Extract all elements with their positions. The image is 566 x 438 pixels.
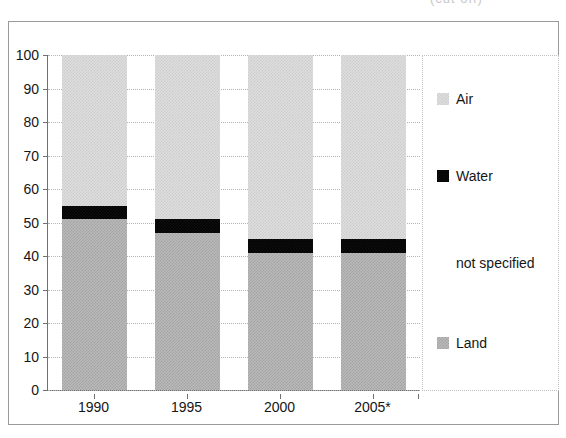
bar-segment[interactable] [248, 239, 313, 252]
bar-segment[interactable] [155, 219, 220, 232]
bar-segment[interactable] [248, 55, 313, 239]
y-tick-label-0: 0 [31, 383, 39, 397]
chart-figure-frame: 1009080706050403020100 1990199520002005*… [8, 21, 559, 425]
bar-group[interactable] [62, 55, 127, 390]
y-tick-label-60: 60 [23, 182, 39, 196]
y-tick-label-10: 10 [23, 350, 39, 364]
legend-entry[interactable]: Land [437, 336, 487, 350]
y-tick-label-70: 70 [23, 149, 39, 163]
x-tick-mark [187, 394, 188, 399]
legend-label: Land [456, 336, 487, 350]
legend-entry[interactable]: Water [437, 169, 493, 183]
y-tick-label-50: 50 [23, 216, 39, 230]
legend-label: Air [456, 92, 473, 106]
legend-entry[interactable]: Air [437, 92, 473, 106]
bar-segment[interactable] [341, 55, 406, 239]
legend-swatch-icon [437, 93, 449, 105]
bar-group[interactable] [248, 55, 313, 390]
top-caption-fragment: (cut off) [430, 0, 550, 7]
legend-swatch-icon [437, 337, 449, 349]
x-tick-mark [94, 394, 95, 399]
bar-segment[interactable] [155, 55, 220, 219]
y-axis: 1009080706050403020100 [9, 55, 43, 391]
chart-legend: AirWaternot specifiedLand [422, 55, 559, 391]
x-tick-label-2005: 2005* [354, 400, 391, 414]
bar-segment[interactable] [341, 253, 406, 390]
y-tick-label-80: 80 [23, 115, 39, 129]
gridline-0 [48, 390, 420, 391]
x-axis: 1990199520002005* [47, 394, 420, 420]
bar-segment[interactable] [62, 219, 127, 390]
x-tick-label-2000: 2000 [264, 400, 295, 414]
x-tick-label-1990: 1990 [78, 400, 109, 414]
bar-segment[interactable] [62, 206, 127, 219]
legend-swatch-icon [437, 170, 449, 182]
y-tick-label-90: 90 [23, 82, 39, 96]
bar-segment[interactable] [62, 55, 127, 206]
x-tick-mark [418, 394, 419, 399]
y-tick-label-40: 40 [23, 249, 39, 263]
bar-segment[interactable] [155, 233, 220, 390]
bar-group[interactable] [341, 55, 406, 390]
y-tick-label-30: 30 [23, 283, 39, 297]
bar-segment[interactable] [341, 239, 406, 252]
legend-entry[interactable]: not specified [437, 256, 535, 270]
x-tick-mark [280, 394, 281, 399]
bar-segment[interactable] [248, 253, 313, 390]
legend-label: not specified [456, 256, 535, 270]
plot-area [47, 55, 420, 391]
bar-group[interactable] [155, 55, 220, 390]
y-tick-label-100: 100 [16, 48, 39, 62]
y-tick-label-20: 20 [23, 316, 39, 330]
legend-label: Water [456, 169, 493, 183]
legend-swatch-icon [437, 257, 449, 269]
x-tick-label-1995: 1995 [171, 400, 202, 414]
x-tick-mark [373, 394, 374, 399]
